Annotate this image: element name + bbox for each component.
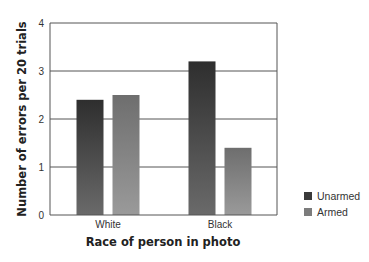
y-tick-label: 1 (38, 162, 44, 173)
y-tick-label: 3 (38, 66, 44, 77)
x-axis-title: Race of person in photo (86, 235, 241, 249)
bars (77, 61, 252, 215)
x-category-label: Black (208, 219, 233, 230)
legend-label: Unarmed (317, 190, 360, 202)
y-tick-label: 0 (38, 210, 44, 221)
y-tick-label: 2 (38, 114, 44, 125)
legend-swatch-armed (304, 208, 312, 216)
bar-black-armed (225, 148, 252, 215)
x-category-labels: WhiteBlack (95, 219, 233, 230)
legend-label: Armed (317, 206, 348, 218)
x-category-label: White (95, 219, 121, 230)
bar-white-armed (113, 95, 140, 215)
y-tick-label: 4 (38, 18, 44, 29)
y-tick-labels: 01234 (38, 18, 44, 221)
legend: UnarmedArmed (304, 190, 360, 218)
bar-black-unarmed (189, 61, 216, 215)
bar-chart: 01234 WhiteBlack Race of person in photo… (0, 0, 369, 262)
y-axis-title: Number of errors per 20 trials (15, 21, 29, 216)
legend-swatch-unarmed (304, 192, 312, 200)
bar-white-unarmed (77, 100, 104, 215)
